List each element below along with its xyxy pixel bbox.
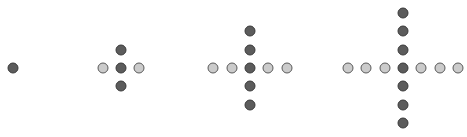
center-dot (398, 63, 409, 74)
vertical-dot (398, 118, 409, 129)
horizontal-dot (343, 63, 354, 74)
horizontal-dot (282, 63, 293, 74)
vertical-dot (116, 45, 127, 56)
vertical-dot (245, 100, 256, 111)
center-dot (8, 63, 19, 74)
vertical-dot (245, 81, 256, 92)
horizontal-dot (263, 63, 274, 74)
vertical-dot (398, 8, 409, 19)
center-dot (245, 63, 256, 74)
horizontal-dot (98, 63, 109, 74)
vertical-dot (398, 26, 409, 37)
vertical-dot (245, 45, 256, 56)
horizontal-dot (361, 63, 372, 74)
vertical-dot (116, 81, 127, 92)
center-dot (116, 63, 127, 74)
horizontal-dot (380, 63, 391, 74)
vertical-dot (245, 26, 256, 37)
vertical-dot (398, 100, 409, 111)
horizontal-dot (416, 63, 427, 74)
horizontal-dot (227, 63, 238, 74)
horizontal-dot (453, 63, 464, 74)
vertical-dot (398, 45, 409, 56)
vertical-dot (398, 81, 409, 92)
horizontal-dot (208, 63, 219, 74)
horizontal-dot (435, 63, 446, 74)
horizontal-dot (134, 63, 145, 74)
